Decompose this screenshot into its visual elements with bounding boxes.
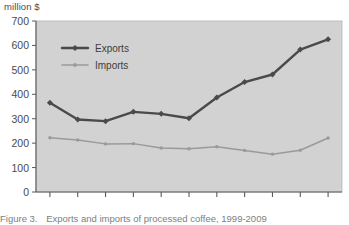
y-axis-tick-label: 500 — [11, 64, 29, 76]
figure-container: million $ 700600500400300200100019992000… — [0, 0, 349, 225]
x-axis-tick-label: 2006 — [234, 199, 254, 200]
legend-label: Imports — [95, 60, 128, 71]
x-axis-tick-label: 2000 — [68, 199, 88, 200]
y-axis-tick-label: 700 — [11, 15, 29, 27]
x-axis-tick-label: 2003 — [151, 199, 171, 200]
x-axis-tick-label: 2002 — [123, 199, 143, 200]
y-axis-tick-label: 200 — [11, 137, 29, 149]
x-axis-tick-label: 2009 — [318, 199, 338, 200]
data-point-imports — [187, 147, 190, 150]
y-axis-unit-label: million $ — [4, 1, 40, 12]
x-axis-tick-label: 2005 — [207, 199, 227, 200]
chart-plot-area: 7006005004003002001000199920002001200220… — [0, 14, 349, 200]
figure-caption-text: Exports and imports of processed coffee,… — [46, 213, 267, 224]
data-point-imports — [243, 149, 246, 152]
data-point-imports — [76, 138, 79, 141]
y-axis-tick-label: 100 — [11, 162, 29, 174]
data-point-imports — [326, 136, 329, 139]
x-axis-tick-label: 2001 — [95, 199, 115, 200]
data-point-imports — [159, 146, 162, 149]
data-point-imports — [271, 152, 274, 155]
figure-caption: Figure 3. Exports and imports of process… — [0, 213, 349, 225]
x-axis-tick-label: 1999 — [40, 199, 60, 200]
figure-caption-number: Figure 3. — [0, 213, 38, 224]
legend-swatch-marker — [73, 63, 77, 67]
data-point-imports — [48, 136, 51, 139]
x-axis-tick-label: 2007 — [262, 199, 282, 200]
y-axis-tick-label: 0 — [23, 186, 29, 198]
data-point-imports — [299, 149, 302, 152]
x-axis-tick-label: 2004 — [179, 199, 199, 200]
legend-label: Exports — [95, 43, 129, 54]
line-chart: 7006005004003002001000199920002001200220… — [0, 14, 349, 200]
y-axis-tick-label: 600 — [11, 39, 29, 51]
y-axis-tick-label: 400 — [11, 88, 29, 100]
x-axis-tick-label: 2008 — [290, 199, 310, 200]
plot-background — [36, 21, 342, 192]
y-axis-tick-label: 300 — [11, 113, 29, 125]
data-point-imports — [215, 145, 218, 148]
data-point-imports — [132, 142, 135, 145]
data-point-imports — [104, 142, 107, 145]
